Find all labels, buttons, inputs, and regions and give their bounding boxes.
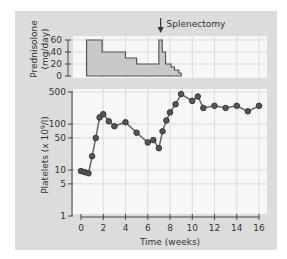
- data-point: [134, 130, 140, 136]
- data-point: [106, 119, 112, 125]
- data-point: [178, 91, 184, 97]
- time-xtick-label: 10: [187, 223, 199, 233]
- prednisolone-ytick-label: 60: [51, 35, 63, 45]
- data-point: [195, 94, 201, 100]
- figure: 0204060 Prednisolone (mg/day) Splenectom…: [0, 0, 287, 259]
- data-point: [145, 140, 151, 146]
- data-point: [164, 118, 170, 124]
- data-point: [223, 105, 229, 111]
- data-point: [245, 109, 251, 115]
- prednisolone-ytick-label: 0: [56, 71, 62, 81]
- data-point: [112, 123, 118, 129]
- time-xtick-label: 12: [209, 223, 220, 233]
- prednisolone-ytick-label: 40: [51, 47, 63, 57]
- data-point: [151, 137, 157, 143]
- data-point: [123, 119, 129, 125]
- platelets-ytick-label: 5: [60, 179, 66, 189]
- prednisolone-ylabel: Prednisolone: [29, 20, 39, 78]
- data-point: [234, 103, 240, 109]
- data-point: [100, 111, 106, 117]
- prednisolone-ytick-label: 20: [51, 59, 63, 69]
- data-point: [201, 105, 207, 111]
- prednisolone-ylabel-units: (mg/day): [40, 28, 50, 69]
- data-point: [173, 101, 179, 107]
- platelets-ytick-label: 10: [55, 165, 67, 175]
- data-point: [93, 135, 99, 141]
- time-xtick-label: 16: [253, 223, 265, 233]
- platelets-ytick-label: 100: [49, 119, 66, 129]
- time-xlabel: Time (weeks): [139, 237, 200, 247]
- platelets-ytick-label: 50: [55, 133, 67, 143]
- platelets-ytick-label: 1: [60, 211, 66, 221]
- data-point: [89, 153, 95, 159]
- data-point: [156, 145, 162, 151]
- data-point: [256, 103, 262, 109]
- time-xtick-label: 6: [145, 223, 151, 233]
- time-xtick-label: 14: [231, 223, 243, 233]
- data-point: [167, 110, 173, 116]
- data-point: [212, 103, 218, 109]
- time-xtick-label: 2: [100, 223, 106, 233]
- data-point: [86, 170, 92, 176]
- platelets-ytick-label: 500: [49, 87, 66, 97]
- splenectomy-label: Splenectomy: [167, 19, 226, 29]
- time-xtick-label: 0: [78, 223, 84, 233]
- data-point: [189, 98, 195, 104]
- time-xtick-label: 8: [167, 223, 173, 233]
- data-point: [160, 128, 166, 134]
- chart-svg: 0204060 Prednisolone (mg/day) Splenectom…: [0, 0, 287, 259]
- time-xtick-label: 4: [123, 223, 129, 233]
